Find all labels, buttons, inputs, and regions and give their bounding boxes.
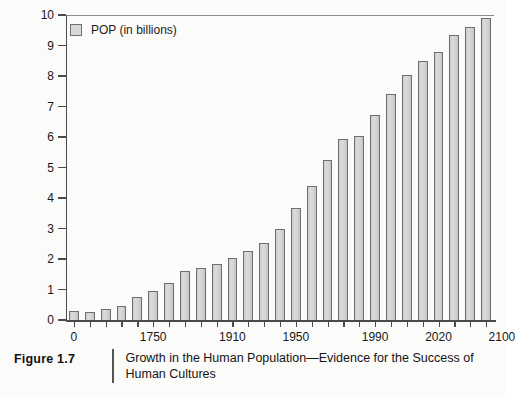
bar — [418, 61, 428, 320]
x-axis-tick — [328, 321, 329, 327]
y-axis-tick-label: 7 — [26, 101, 54, 113]
x-axis-tick — [454, 321, 455, 327]
bar — [370, 115, 380, 320]
bar — [69, 311, 79, 320]
x-axis-tick — [248, 321, 249, 327]
bar — [386, 94, 396, 320]
chart-legend: POP (in billions) — [70, 24, 177, 36]
x-axis-tick-label: 1990 — [362, 331, 389, 343]
x-axis-tick — [137, 321, 138, 327]
x-axis-tick — [470, 321, 471, 327]
bar — [85, 312, 95, 320]
y-axis-tick-label: 10 — [26, 9, 54, 21]
bar — [434, 52, 444, 320]
bar — [101, 309, 111, 320]
x-axis-tick — [312, 321, 313, 327]
bar — [259, 243, 269, 320]
x-axis-tick — [264, 321, 265, 327]
y-axis-tick-label: 5 — [26, 162, 54, 174]
bar — [228, 258, 238, 320]
x-axis-tick — [232, 321, 233, 327]
bar — [465, 27, 475, 320]
x-axis-tick — [423, 321, 424, 327]
x-axis-tick-label: 0 — [71, 331, 78, 343]
x-axis-tick-label: 1750 — [140, 331, 167, 343]
x-axis-tick-label: 1950 — [282, 331, 309, 343]
bar — [338, 139, 348, 320]
x-axis-tick-label: 2020 — [425, 331, 452, 343]
bar — [307, 186, 317, 320]
y-axis-tick — [58, 106, 66, 107]
y-axis-tick-label: 4 — [26, 192, 54, 204]
x-axis-tick — [359, 321, 360, 327]
x-axis-tick — [121, 321, 122, 327]
x-axis-tick — [74, 321, 75, 327]
bar — [132, 297, 142, 320]
legend-swatch-icon — [70, 24, 82, 36]
y-axis-tick — [58, 197, 66, 198]
x-axis-tick — [201, 321, 202, 327]
y-axis-tick — [58, 136, 66, 137]
bar — [354, 136, 364, 320]
y-axis-tick-label: 2 — [26, 253, 54, 265]
x-axis-tick — [407, 321, 408, 327]
bar — [180, 271, 190, 320]
figure-number: Figure 1.7 — [0, 349, 112, 367]
x-axis-tick — [153, 321, 154, 327]
y-axis-tick — [58, 75, 66, 76]
bar — [212, 264, 222, 320]
x-axis-tick — [486, 321, 487, 327]
x-axis-tick — [185, 321, 186, 327]
legend-label-pop: POP (in billions) — [91, 24, 177, 36]
y-axis-tick — [58, 228, 66, 229]
bar — [323, 160, 333, 320]
y-axis-tick — [58, 319, 66, 320]
figure-caption: Figure 1.7 Growth in the Human Populatio… — [0, 349, 505, 397]
bar — [291, 208, 301, 320]
x-axis-tick — [280, 321, 281, 327]
bar — [164, 283, 174, 320]
x-axis-tick — [217, 321, 218, 327]
bar — [449, 35, 459, 320]
y-axis-tick — [58, 167, 66, 168]
chart-plot: 012345678910 0175019101950199020202100 P… — [0, 0, 505, 345]
bar-series-pop — [66, 15, 494, 320]
bar — [481, 18, 491, 320]
bar — [275, 229, 285, 320]
y-axis-tick — [58, 14, 66, 15]
x-axis-tick — [343, 321, 344, 327]
y-axis-tick-label: 9 — [26, 40, 54, 52]
y-axis-tick — [58, 45, 66, 46]
x-axis-tick — [169, 321, 170, 327]
y-axis-tick — [58, 289, 66, 290]
bar — [402, 75, 412, 320]
x-axis-tick — [391, 321, 392, 327]
y-axis-tick-label: 8 — [26, 70, 54, 82]
bar — [243, 251, 253, 320]
x-axis-tick — [106, 321, 107, 327]
y-axis-tick-label: 6 — [26, 131, 54, 143]
x-axis-tick-label: 2100 — [489, 331, 515, 343]
x-axis-tick-label: 1910 — [219, 331, 246, 343]
caption-text: Growth in the Human Population—Evidence … — [126, 349, 488, 382]
y-axis-tick-label: 0 — [26, 314, 54, 326]
x-axis-tick — [439, 321, 440, 327]
x-axis-tick — [296, 321, 297, 327]
x-axis-tick — [375, 321, 376, 327]
y-axis-tick — [58, 258, 66, 259]
bar — [148, 291, 158, 320]
bar — [117, 306, 127, 320]
bar — [196, 268, 206, 320]
x-axis-tick — [90, 321, 91, 327]
y-axis-tick-label: 3 — [26, 223, 54, 235]
caption-divider — [112, 349, 114, 383]
y-axis-tick-label: 1 — [26, 284, 54, 296]
